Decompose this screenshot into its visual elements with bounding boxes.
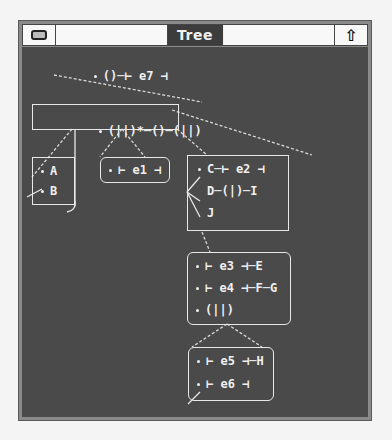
tree-canvas[interactable]: ()─⊢ e7 ⊣ (||)*─()─(||) A B ⊢ e1 ⊣ C─⊢ e… bbox=[22, 47, 368, 417]
bullet bbox=[41, 170, 44, 173]
box-e1[interactable]: ⊢ e1 ⊣ bbox=[100, 157, 170, 183]
row-c[interactable]: C─⊢ e2 ⊣ bbox=[198, 162, 265, 176]
bullet bbox=[99, 130, 102, 133]
bullet bbox=[196, 265, 199, 268]
bullet bbox=[196, 287, 199, 290]
row-e1[interactable]: ⊢ e1 ⊣ bbox=[109, 163, 161, 177]
bullet bbox=[94, 75, 97, 78]
box-e3[interactable]: ⊢ e3 ⊣─E ⊢ e4 ⊣─F─G (||) bbox=[187, 252, 291, 325]
resize-button[interactable]: ⇧ bbox=[334, 25, 367, 45]
box-e5[interactable]: ⊢ e5 ⊣─H ⊢ e6 ⊣ bbox=[188, 347, 274, 401]
title-bar[interactable]: Tree ⇧ bbox=[22, 24, 368, 46]
row-e4[interactable]: ⊢ e4 ⊣─F─G bbox=[196, 281, 277, 295]
row-d[interactable]: D─(|)─I bbox=[198, 184, 258, 198]
row-b[interactable]: B bbox=[41, 184, 57, 198]
level1-row[interactable]: (||)*─()─(||) bbox=[41, 110, 202, 152]
row-a[interactable]: A bbox=[41, 164, 57, 178]
window-title: Tree bbox=[167, 25, 223, 45]
bullet bbox=[198, 168, 201, 171]
bullet bbox=[109, 169, 112, 172]
row-e6[interactable]: ⊢ e6 ⊣ bbox=[197, 377, 249, 391]
bullet bbox=[196, 309, 199, 312]
minimize-button[interactable] bbox=[23, 25, 56, 45]
row-j[interactable]: J bbox=[198, 206, 214, 220]
box-ab[interactable]: A B bbox=[32, 157, 75, 205]
box-cdj[interactable]: C─⊢ e2 ⊣ D─(|)─I J bbox=[187, 155, 289, 231]
row-e3[interactable]: ⊢ e3 ⊣─E bbox=[196, 259, 263, 273]
tree-window: Tree ⇧ bbox=[18, 20, 372, 421]
bullet bbox=[197, 383, 200, 386]
bullet bbox=[197, 360, 200, 363]
up-arrow-icon: ⇧ bbox=[344, 26, 357, 45]
level1-node[interactable]: (||)*─()─(||) bbox=[32, 104, 179, 130]
row-e5[interactable]: ⊢ e5 ⊣─H bbox=[197, 354, 264, 368]
root-row[interactable]: ()─⊢ e7 ⊣ bbox=[36, 55, 168, 97]
minimize-icon bbox=[31, 30, 47, 40]
bullet bbox=[41, 190, 44, 193]
row-tuple[interactable]: (||) bbox=[196, 303, 234, 317]
root-node[interactable]: ()─⊢ e7 ⊣ bbox=[32, 52, 122, 72]
